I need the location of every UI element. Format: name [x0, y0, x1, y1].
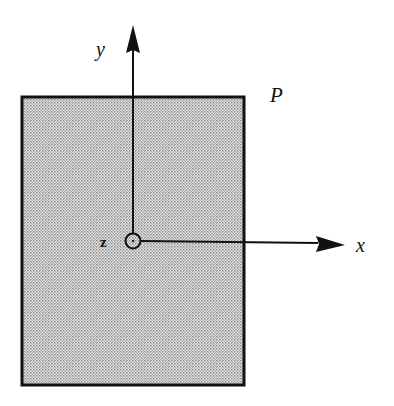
plate-diagram: y x z P	[0, 0, 394, 406]
y-axis-label: y	[94, 38, 105, 61]
y-arrow-head-icon	[126, 25, 140, 53]
z-axis-label: z	[100, 234, 107, 250]
x-arrow-head-icon	[316, 236, 345, 252]
z-dot-icon	[132, 240, 134, 242]
plate-label: P	[269, 83, 283, 107]
x-axis-label: x	[355, 234, 365, 256]
